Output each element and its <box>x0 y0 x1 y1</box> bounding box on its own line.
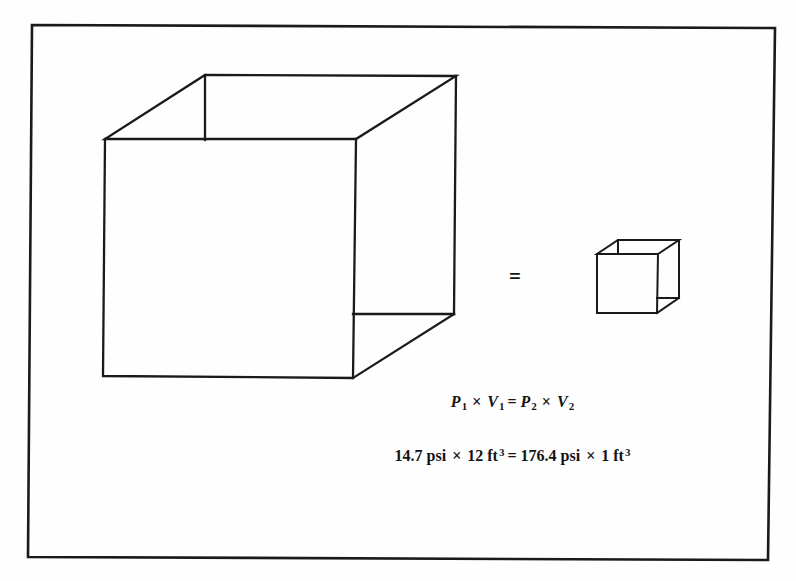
equals-operator: = <box>507 447 516 464</box>
equals-sign: = <box>500 264 530 290</box>
multiplication-sign: × <box>586 447 595 464</box>
pressure2-variable: P <box>521 393 531 410</box>
volume1-subscript: 1 <box>499 400 505 412</box>
large-cube-top-rim <box>105 75 456 139</box>
multiplication-sign: × <box>542 393 551 410</box>
small-cube <box>597 240 679 313</box>
symbolic-equation: P1×V1=P2×V2 <box>402 393 622 411</box>
initial-volume-value: 12 ft <box>467 447 498 464</box>
multiplication-sign: × <box>452 447 461 464</box>
final-volume-exponent: 3 <box>625 446 631 458</box>
small-cube-bottom-right-diagonal <box>657 298 679 313</box>
pressure2-subscript: 2 <box>531 400 537 412</box>
large-cube-front-face <box>103 139 356 378</box>
initial-volume-exponent: 3 <box>499 446 505 458</box>
large-cube <box>103 75 456 378</box>
large-cube-bottom-right-diagonal <box>353 314 454 378</box>
equals-operator: = <box>507 393 516 410</box>
boyles-law-diagram <box>0 0 796 581</box>
scanned-page: = P1×V1=P2×V2 14.7 psi×12 ft3=176.4 psi×… <box>0 0 796 581</box>
multiplication-sign: × <box>472 393 481 410</box>
final-volume-value: 1 ft <box>601 447 624 464</box>
pressure1-subscript: 1 <box>462 400 468 412</box>
pressure1-variable: P <box>451 393 461 410</box>
numeric-equation: 14.7 psi×12 ft3=176.4 psi×1 ft3 <box>362 447 662 465</box>
large-cube-right-back-edge <box>454 76 456 314</box>
diagram-frame-border <box>28 25 775 560</box>
volume2-variable: V <box>557 393 568 410</box>
initial-pressure-value: 14.7 psi <box>395 447 447 464</box>
final-pressure-value: 176.4 psi <box>521 447 581 464</box>
small-cube-top-rim <box>597 240 679 254</box>
volume2-subscript: 2 <box>569 400 575 412</box>
volume1-variable: V <box>487 393 498 410</box>
small-cube-front-face <box>597 254 658 313</box>
